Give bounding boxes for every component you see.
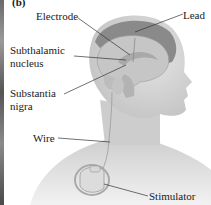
ear (112, 77, 124, 95)
label-substantia-line1: Substantia (10, 87, 56, 99)
figure-panel-b: (b) Electrode Lead Subthalamic nucleus S… (0, 0, 211, 205)
label-substantia-line2: nigra (10, 100, 33, 112)
wire-leader (58, 138, 110, 142)
stimulator-device (75, 165, 109, 195)
label-stimulator: Stimulator (149, 190, 195, 202)
label-electrode: Electrode (36, 10, 78, 22)
panel-label: (b) (12, 0, 25, 8)
label-subthalamic-line2: nucleus (10, 57, 44, 69)
label-lead: Lead (183, 9, 205, 21)
label-wire: Wire (33, 132, 55, 144)
label-subthalamic-line1: Subthalamic (10, 44, 65, 56)
